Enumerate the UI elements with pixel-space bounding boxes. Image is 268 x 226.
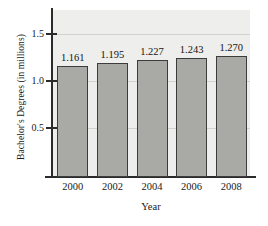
x-axis-title: Year [52,201,250,213]
y-axis-tick-label: 1.5 [14,29,44,39]
y-axis-tick-label: 0.5 [14,123,44,133]
bar [57,66,88,177]
bar-chart-figure: Bachelor's Degrees (in millions) 0.51.01… [0,0,268,226]
bar-value-label: 1.270 [207,42,255,53]
y-axis-tick-label: 1.0 [14,76,44,86]
gridline [52,34,250,35]
y-axis-tick [46,33,57,35]
x-axis-tick-label: 2008 [207,181,255,193]
bar [137,60,168,177]
y-axis-tick [46,127,57,129]
bar [97,63,128,177]
bar [176,58,207,177]
bar [216,56,247,177]
y-axis-tick [46,80,57,82]
